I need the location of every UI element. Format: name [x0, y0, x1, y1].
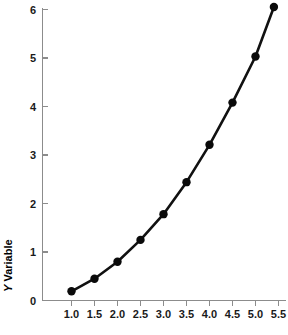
data-point-marker: [67, 287, 75, 295]
x-tick-label: 3.5: [179, 308, 194, 320]
x-tick-label: 4.0: [202, 308, 217, 320]
data-point-marker: [159, 210, 167, 218]
y-axis-ticks: [43, 10, 48, 253]
y-tick-label: 3: [30, 149, 36, 161]
data-point-marker: [228, 98, 236, 106]
y-tick-label: 6: [30, 4, 36, 16]
y-tick-label: 5: [30, 52, 36, 64]
x-tick-label: 5.5: [271, 308, 286, 320]
svg-text:Y Variable: Y Variable: [2, 239, 14, 292]
y-axis-title: Y Variable: [2, 239, 14, 292]
x-tick-label: 3.0: [156, 308, 171, 320]
data-point-marker: [182, 178, 190, 186]
x-tick-label: 1.0: [64, 308, 79, 320]
data-point-marker: [90, 274, 98, 282]
x-tick-label: 5.0: [248, 308, 263, 320]
x-axis-ticks: [72, 301, 279, 307]
x-tick-label: 2.0: [110, 308, 125, 320]
data-line-series: [72, 7, 274, 291]
x-tick-label: 1.5: [87, 308, 102, 320]
data-point-marker: [205, 141, 213, 149]
y-tick-label: 4: [30, 101, 37, 113]
line-chart: 6 5 4 3 2 1 0 1.0 1.5 2.0 2.5 3.: [0, 0, 288, 335]
y-axis-tick-labels: 6 5 4 3 2 1 0: [30, 4, 37, 307]
x-tick-label: 4.5: [225, 308, 240, 320]
y-tick-label: 1: [30, 246, 36, 258]
x-axis-tick-labels: 1.0 1.5 2.0 2.5 3.0 3.5 4.0 4.5 5.0 5.5: [64, 308, 286, 320]
data-point-marker: [251, 52, 259, 60]
data-point-marker: [113, 258, 121, 266]
data-point-marker: [270, 3, 278, 11]
data-markers-group: [67, 3, 278, 296]
y-axis-title-roman: Variable: [2, 239, 14, 284]
y-tick-label: 2: [30, 198, 36, 210]
data-point-marker: [136, 236, 144, 244]
x-tick-label: 2.5: [133, 308, 148, 320]
y-tick-label: 0: [30, 295, 36, 307]
chart-figure: 6 5 4 3 2 1 0 1.0 1.5 2.0 2.5 3.: [0, 0, 288, 335]
